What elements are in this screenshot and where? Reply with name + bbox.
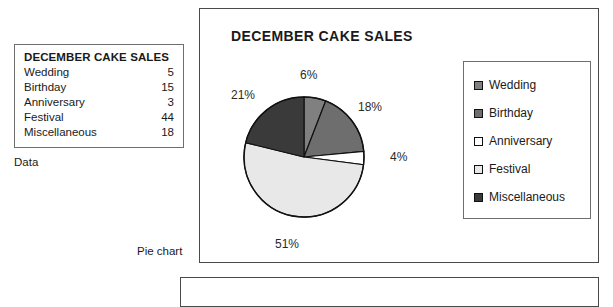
table-row: Miscellaneous18 (24, 125, 174, 140)
legend-item-label: Birthday (489, 107, 533, 119)
table-cell-value: 15 (152, 80, 174, 95)
table-row: Festival44 (24, 110, 174, 125)
data-table-caption: Data (14, 156, 38, 168)
pie-label-birthday: 18% (358, 100, 382, 114)
pie-chart-caption: Pie chart (137, 245, 182, 257)
chart-legend: WeddingBirthdayAnniversaryFestivalMiscel… (463, 61, 591, 219)
pie-chart-svg (229, 82, 379, 232)
table-row: Anniversary3 (24, 95, 174, 110)
table-cell-label: Festival (24, 110, 152, 125)
data-table-title: DECEMBER CAKE SALES (24, 51, 174, 63)
table-cell-label: Wedding (24, 65, 152, 80)
legend-swatch-icon (474, 193, 483, 202)
pie-chart (229, 82, 379, 232)
table-cell-value: 3 (152, 95, 174, 110)
legend-swatch-icon (474, 109, 483, 118)
chart-title: DECEMBER CAKE SALES (231, 28, 413, 44)
legend-item-label: Anniversary (489, 135, 552, 147)
table-cell-label: Miscellaneous (24, 125, 152, 140)
legend-swatch-icon (474, 137, 483, 146)
legend-item-festival[interactable]: Festival (474, 155, 590, 183)
legend-item-label: Miscellaneous (489, 191, 565, 203)
pie-label-miscellaneous: 21% (231, 88, 255, 102)
table-cell-value: 5 (152, 65, 174, 80)
pie-label-wedding: 6% (300, 68, 317, 82)
legend-item-miscellaneous[interactable]: Miscellaneous (474, 183, 590, 211)
table-row: Wedding5 (24, 65, 174, 80)
table-cell-value: 18 (152, 125, 174, 140)
legend-item-anniversary[interactable]: Anniversary (474, 127, 590, 155)
pie-label-festival: 51% (275, 237, 299, 251)
pie-label-anniversary: 4% (390, 150, 407, 164)
table-row: Birthday15 (24, 80, 174, 95)
data-table: Wedding5Birthday15Anniversary3Festival44… (24, 65, 174, 140)
legend-item-birthday[interactable]: Birthday (474, 99, 590, 127)
legend-swatch-icon (474, 165, 483, 174)
legend-swatch-icon (474, 81, 483, 90)
bottom-empty-panel (180, 277, 599, 307)
legend-item-label: Festival (489, 163, 530, 175)
table-cell-label: Anniversary (24, 95, 152, 110)
data-table-panel: DECEMBER CAKE SALES Wedding5Birthday15An… (14, 44, 184, 148)
table-cell-label: Birthday (24, 80, 152, 95)
legend-item-label: Wedding (489, 79, 536, 91)
legend-item-wedding[interactable]: Wedding (474, 71, 590, 99)
table-cell-value: 44 (152, 110, 174, 125)
